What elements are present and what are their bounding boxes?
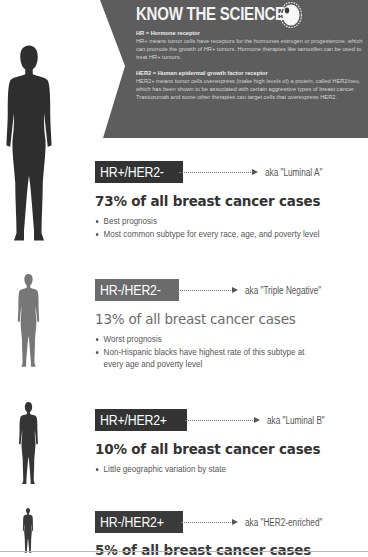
bullet-item: Non-Hispanic blacks have highest rate of… — [95, 346, 319, 371]
subtype-badge: HR+/HER2+ — [95, 409, 187, 431]
subtype-aka: aka "HER2-enriched" — [245, 517, 322, 528]
bullet-item: Little geographic variation by state — [95, 463, 362, 476]
bullet-item: Best prognosis — [95, 215, 362, 228]
dotted-arrow-icon — [181, 522, 233, 525]
know-the-science-banner: KNOW THE SCIENCE HR = Hormone receptor H… — [100, 0, 368, 138]
subtype-aka: aka "Triple Negative" — [245, 285, 321, 296]
bullet-item: Most common subtype for every race, age,… — [95, 228, 362, 241]
subtype-bullets: Best prognosis Most common subtype for e… — [95, 215, 365, 240]
subtype-triple-negative: HR-/HER2- aka "Triple Negative" 13% of a… — [95, 279, 365, 371]
her2-definition: HER2+ means tumor cells overexpress (mak… — [136, 77, 366, 102]
woman-silhouette-small — [17, 402, 40, 486]
dotted-arrow-icon — [179, 172, 253, 175]
subtype-headline: 10% of all breast cancer cases — [95, 441, 365, 457]
subtype-bullets: Little geographic variation by state — [95, 463, 365, 476]
bullet-item: Worst prognosis — [95, 333, 362, 346]
woman-silhouette-large — [4, 44, 54, 247]
subtype-luminal-b: HR+/HER2+ aka "Luminal B" 10% of all bre… — [95, 409, 365, 476]
banner-title: KNOW THE SCIENCE — [136, 2, 332, 26]
dotted-arrow-icon — [185, 420, 255, 423]
subtype-badge: HR-/HER2- — [95, 279, 179, 301]
hr-term: HR = Hormone receptor — [136, 29, 346, 37]
woman-silhouette-tiny — [22, 508, 34, 554]
bottom-divider — [0, 551, 368, 552]
dotted-arrow-icon — [175, 290, 233, 293]
subtype-bullets: Worst prognosis Non-Hispanic blacks have… — [95, 333, 365, 371]
subtype-aka: aka "Luminal A" — [265, 167, 322, 178]
hr-definition: HR+ means tumor cells have receptors for… — [136, 37, 366, 62]
subtype-headline: 5% of all breast cancer cases — [95, 542, 365, 557]
subtype-badge: HR+/HER2- — [95, 161, 183, 183]
cell-icon — [280, 2, 302, 28]
subtype-luminal-a: HR+/HER2- aka "Luminal A" 73% of all bre… — [95, 161, 365, 240]
subtype-headline: 13% of all breast cancer cases — [95, 311, 365, 327]
subtype-aka: aka "Luminal B" — [267, 415, 325, 426]
subtype-badge: HR-/HER2+ — [95, 511, 183, 533]
her2-term: HER2 = Human epidermal growth factor rec… — [136, 69, 346, 77]
woman-silhouette-medium — [15, 274, 42, 369]
subtype-headline: 73% of all breast cancer cases — [95, 193, 365, 209]
